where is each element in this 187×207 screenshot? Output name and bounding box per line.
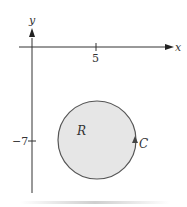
y-axis-label: y [28,14,36,27]
x-axis [19,43,174,51]
y-tick-label: −7 [12,135,28,148]
region-label: R [76,124,86,138]
region-r [58,101,136,179]
y-axis-arrow-icon [29,28,35,37]
diagram-canvas: y x 5 −7 R C [0,0,187,207]
curve-label: C [139,137,148,151]
x-axis-label: x [175,41,182,54]
page-shadow [20,201,170,204]
y-axis [28,28,36,193]
x-axis-arrow-icon [165,44,174,50]
x-tick-label: 5 [92,52,99,65]
